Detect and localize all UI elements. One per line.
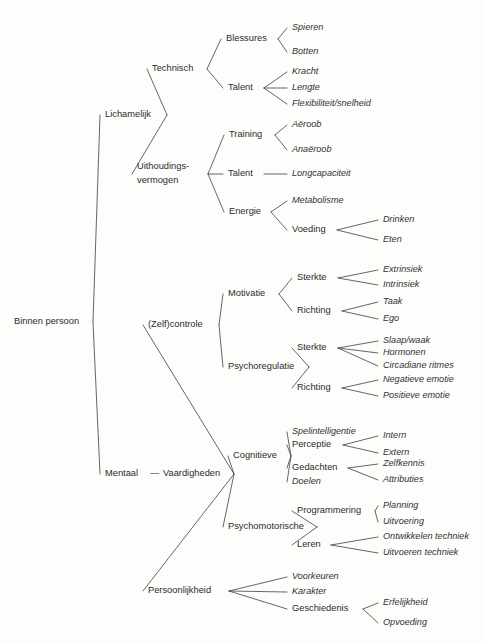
tree-node-karakter[interactable]: Karakter bbox=[292, 586, 327, 596]
tree-node-positieve[interactable]: Positieve emotie bbox=[383, 390, 450, 400]
tree-node-lengte[interactable]: Lengte bbox=[292, 82, 320, 92]
tree-node-gedachten[interactable]: Gedachten bbox=[292, 462, 338, 472]
tree-node-uithoudings2[interactable]: vermogen bbox=[137, 175, 178, 185]
tree-edge bbox=[348, 464, 378, 468]
tree-edge bbox=[363, 603, 378, 609]
tree-node-motivatie[interactable]: Motivatie bbox=[228, 288, 265, 298]
tree-node-spieren[interactable]: Spieren bbox=[292, 22, 323, 32]
tree-edge bbox=[375, 506, 378, 511]
tree-node-technisch[interactable]: Technisch bbox=[152, 63, 193, 73]
tree-edge bbox=[337, 220, 378, 230]
tree-node-extrinsiek[interactable]: Extrinsiek bbox=[383, 264, 423, 274]
tree-node-root[interactable]: Binnen persoon bbox=[14, 316, 79, 326]
tree-node-sterkte1[interactable]: Sterkte bbox=[297, 272, 326, 282]
tree-edge bbox=[337, 230, 378, 240]
tree-edge bbox=[143, 474, 234, 591]
tree-node-aeroob[interactable]: Aëroob bbox=[291, 119, 321, 129]
tree-node-energie[interactable]: Energie bbox=[229, 206, 261, 216]
tree-node-persoonlijkheid[interactable]: Persoonlijkheid bbox=[148, 585, 211, 595]
tree-node-metabolisme[interactable]: Metabolisme bbox=[292, 195, 344, 205]
tree-node-negatieve[interactable]: Negatieve emotie bbox=[383, 374, 454, 384]
tree-edge bbox=[207, 69, 223, 88]
tree-edge bbox=[348, 468, 378, 480]
tree-edge bbox=[275, 125, 287, 135]
tree-node-planning[interactable]: Planning bbox=[383, 500, 418, 510]
tree-node-perceptie[interactable]: Perceptie bbox=[292, 439, 331, 449]
tree-node-spelintelligentie[interactable]: Spelintelligentie bbox=[292, 426, 356, 436]
tree-edge bbox=[207, 39, 221, 69]
tree-node-mentaal[interactable]: Mentaal bbox=[105, 468, 138, 478]
tree-edge bbox=[331, 537, 378, 545]
tree-edge bbox=[342, 302, 378, 311]
tree-edge bbox=[338, 270, 378, 278]
tree-edge bbox=[363, 609, 378, 623]
tree-edge bbox=[342, 311, 378, 319]
tree-edge bbox=[278, 39, 287, 52]
tree-edge bbox=[147, 69, 167, 115]
tree-edge bbox=[264, 88, 287, 104]
tree-node-psychoregulatie[interactable]: Psychoregulatie bbox=[228, 361, 294, 371]
tree-edge bbox=[287, 456, 291, 482]
tree-node-intern[interactable]: Intern bbox=[383, 430, 406, 440]
tree-node-intrinsiek[interactable]: Intrinsiek bbox=[383, 279, 420, 289]
tree-node-uithoudings1[interactable]: Uithoudings- bbox=[137, 161, 189, 171]
tree-node-ontwikkelen[interactable]: Ontwikkelen techniek bbox=[383, 531, 469, 541]
tree-node-slaapwaak[interactable]: Slaap/waak bbox=[383, 335, 430, 345]
tree-node-psychomotorische[interactable]: Psychomotorische bbox=[228, 521, 304, 531]
tree-node-voeding[interactable]: Voeding bbox=[292, 224, 326, 234]
tree-edge bbox=[208, 135, 224, 174]
tree-node-talent1[interactable]: Talent bbox=[228, 82, 253, 92]
tree-node-zelfcontrole[interactable]: (Zelf)controle bbox=[148, 319, 203, 329]
tree-node-hormonen[interactable]: Hormonen bbox=[383, 347, 425, 357]
tree-node-anaeroob[interactable]: Anaëroob bbox=[291, 144, 331, 154]
tree-node-flexibiliteit[interactable]: Flexibiliteit/snelheid bbox=[292, 98, 372, 108]
tree-node-opvoeding[interactable]: Opvoeding bbox=[383, 617, 427, 627]
tree-node-cognitieve[interactable]: Cognitieve bbox=[233, 450, 277, 460]
tree-node-lichamelijk[interactable]: Lichamelijk bbox=[105, 109, 151, 119]
tree-node-vaardigheden[interactable]: Vaardigheden bbox=[163, 468, 220, 478]
hierarchy-tree-diagram: Binnen persoonLichamelijkTechnischBlessu… bbox=[0, 0, 485, 643]
tree-edge bbox=[279, 294, 292, 311]
tree-node-richting1[interactable]: Richting bbox=[297, 305, 331, 315]
tree-edge bbox=[331, 545, 378, 553]
tree-node-longcapaciteit[interactable]: Longcapaciteit bbox=[292, 168, 351, 178]
tree-node-sterkte2[interactable]: Sterkte bbox=[297, 342, 326, 352]
tree-node-richting2[interactable]: Richting bbox=[297, 382, 331, 392]
tree-node-leren[interactable]: Leren bbox=[297, 539, 321, 549]
tree-edge bbox=[229, 577, 287, 591]
tree-edge bbox=[338, 278, 378, 285]
tree-node-zelfkennis[interactable]: Zelfkennis bbox=[382, 458, 425, 468]
tree-node-uitvoering[interactable]: Uitvoering bbox=[383, 516, 424, 526]
tree-edge bbox=[93, 115, 100, 322]
tree-node-eten[interactable]: Eten bbox=[383, 234, 402, 244]
tree-edge bbox=[143, 325, 234, 474]
tree-node-drinken[interactable]: Drinken bbox=[383, 214, 414, 224]
tree-node-erfelijkheid[interactable]: Erfelijkheid bbox=[383, 597, 428, 607]
tree-node-talent2[interactable]: Talent bbox=[228, 168, 253, 178]
tree-edge bbox=[375, 511, 378, 522]
tree-node-taak[interactable]: Taak bbox=[383, 296, 403, 306]
tree-node-botten[interactable]: Botten bbox=[292, 46, 318, 56]
tree-node-extern[interactable]: Extern bbox=[383, 447, 409, 457]
tree-node-circadiane[interactable]: Circadiane ritmes bbox=[383, 360, 454, 370]
tree-node-training[interactable]: Training bbox=[229, 129, 262, 139]
tree-node-ego[interactable]: Ego bbox=[383, 313, 399, 323]
tree-edge bbox=[343, 445, 378, 453]
tree-edge bbox=[223, 474, 234, 527]
tree-edge bbox=[271, 212, 287, 230]
tree-edge bbox=[343, 436, 378, 445]
tree-node-voorkeuren[interactable]: Voorkeuren bbox=[292, 571, 339, 581]
tree-node-uitvoeren[interactable]: Uitvoeren techniek bbox=[383, 547, 459, 557]
tree-edge bbox=[229, 591, 287, 592]
tree-node-geschiedenis[interactable]: Geschiedenis bbox=[292, 603, 349, 613]
tree-node-doelen[interactable]: Doelen bbox=[292, 476, 321, 486]
tree-edge bbox=[264, 72, 287, 88]
tree-node-kracht[interactable]: Kracht bbox=[292, 66, 319, 76]
tree-node-attributies[interactable]: Attributies bbox=[382, 474, 424, 484]
tree-node-programmering[interactable]: Programmering bbox=[297, 505, 361, 515]
tree-edge bbox=[219, 294, 223, 325]
tree-node-dash[interactable]: — bbox=[150, 468, 160, 478]
tree-node-blessures[interactable]: Blessures bbox=[226, 33, 267, 43]
tree-edge bbox=[278, 28, 287, 39]
tree-edge bbox=[208, 174, 224, 212]
